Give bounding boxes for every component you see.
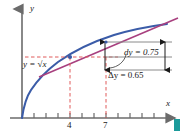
figure-svg — [0, 0, 182, 138]
dy-annotation: dy = 0.75 — [124, 48, 159, 57]
figure-canvas: y x 4 7 y = √x dy = 0.75 Δy = 0.65 — [0, 0, 182, 138]
sqrt-curve — [22, 24, 167, 118]
delta-y-annotation: Δy = 0.65 — [108, 71, 144, 80]
x-tick-label-7: 7 — [103, 121, 108, 130]
x-axis-label: x — [166, 99, 170, 108]
tangent-point-marker — [68, 55, 72, 59]
curve-point-marker-at-7 — [104, 40, 107, 43]
corner-color-mark — [174, 119, 180, 131]
x-axis — [10, 113, 175, 118]
curve-equation-label: y = √x — [23, 60, 47, 69]
x-tick-label-4: 4 — [67, 121, 72, 130]
y-axis-label: y — [30, 4, 34, 13]
